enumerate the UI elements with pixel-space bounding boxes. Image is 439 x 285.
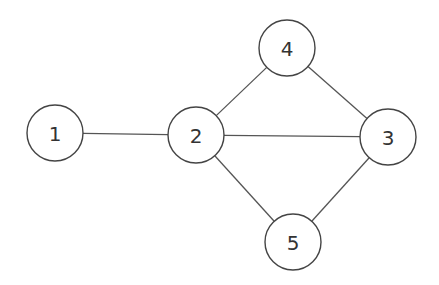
node-2: 2 — [168, 107, 224, 163]
node-label: 2 — [190, 124, 203, 148]
node-1: 1 — [27, 105, 83, 161]
edge-2-4 — [216, 67, 267, 115]
edge-1-2 — [83, 133, 168, 134]
node-5: 5 — [265, 214, 321, 270]
node-label: 4 — [281, 37, 294, 61]
node-3: 3 — [360, 109, 416, 165]
node-label: 1 — [49, 122, 62, 146]
node-label: 5 — [287, 231, 300, 255]
nodes-layer: 12345 — [27, 20, 416, 270]
node-label: 3 — [382, 126, 395, 150]
edge-2-5 — [215, 156, 274, 222]
edge-5-3 — [312, 158, 369, 221]
edge-2-3 — [224, 135, 360, 136]
graph-diagram: 12345 — [0, 0, 439, 285]
node-4: 4 — [259, 20, 315, 76]
edge-4-3 — [308, 67, 367, 119]
edges-layer — [83, 67, 369, 222]
